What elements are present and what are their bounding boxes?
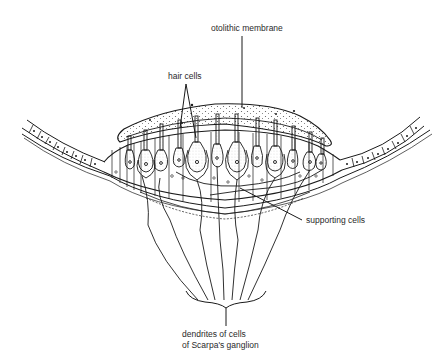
dendrites-label-line2: of Scarpa's ganglion <box>182 340 259 351</box>
right-epithelium <box>340 117 424 170</box>
supporting-cells-label: supporting cells <box>306 215 365 226</box>
hair-cells-label: hair cells <box>168 71 202 82</box>
supporting-cells-leader <box>240 188 302 220</box>
otolithic-membrane-label: otolithic membrane <box>211 23 283 34</box>
dendrites-bracket <box>186 291 266 326</box>
left-epithelium <box>22 120 105 172</box>
hair-cell <box>125 136 134 169</box>
hair-cell <box>137 130 155 178</box>
connective-tissue-layer <box>22 130 432 219</box>
dendrites-label: dendrites of cells of Scarpa's ganglion <box>182 329 259 351</box>
macula-diagram <box>0 0 448 362</box>
dendrites-label-line1: dendrites of cells <box>182 329 259 340</box>
